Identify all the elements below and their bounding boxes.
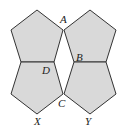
- label-d: D: [42, 65, 50, 76]
- label-y: Y: [85, 116, 91, 127]
- label-a: A: [60, 14, 67, 25]
- label-b: B: [76, 52, 83, 63]
- pentagon-bottom-left: [11, 62, 63, 114]
- label-x: X: [34, 116, 41, 127]
- pentagon-top-right: [64, 10, 116, 62]
- label-c: C: [58, 98, 65, 109]
- pentagon-bottom-right: [64, 62, 116, 114]
- pentagon-top-left: [11, 10, 63, 62]
- pentagon-figure: A B D C X Y: [0, 0, 121, 129]
